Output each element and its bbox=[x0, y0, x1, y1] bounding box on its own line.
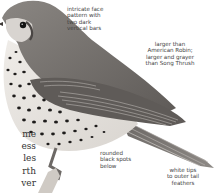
field-guide-page: me ess les rth ver intricate face patter… bbox=[0, 0, 221, 193]
body-text-line: ver bbox=[0, 177, 36, 189]
callout-tail-tips: white tips to outer tail feathers bbox=[158, 167, 208, 186]
callout-face-pattern: intricate face pattern with two dark ver… bbox=[67, 6, 103, 31]
body-text-line: me bbox=[0, 128, 36, 140]
callout-black-spots: rounded black spots below bbox=[100, 150, 131, 169]
body-text-line: les bbox=[0, 152, 36, 164]
callout-size-comparison: larger than American Robin; larger and g… bbox=[134, 41, 206, 66]
eye bbox=[20, 22, 26, 28]
perch bbox=[38, 168, 60, 193]
body-text-line: ess bbox=[0, 140, 36, 152]
beak bbox=[0, 22, 3, 26]
body-text-fragment: me ess les rth ver bbox=[0, 128, 36, 189]
body-text-line: rth bbox=[0, 165, 36, 177]
